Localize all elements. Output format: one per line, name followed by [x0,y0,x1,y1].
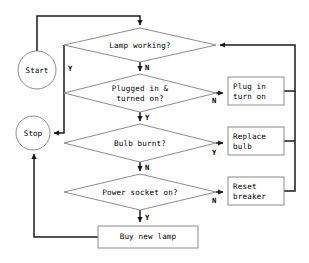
node-start-label: Start [7,66,67,75]
node-buy-new-lamp [98,226,198,248]
flowchart-canvas: Start Stop Lamp working? Plugged in & tu… [0,0,309,263]
branch-label-power-socket-no: N [212,196,216,205]
branch-label-power-socket-yes: Y [145,213,149,222]
node-plug-in-turn-on [228,77,284,105]
branch-label-lamp-working-yes: Y [68,64,72,73]
node-bulb-burnt [64,124,216,162]
branch-label-bulb-burnt-no: N [145,163,149,172]
node-power-socket [64,174,216,210]
node-lamp-working [64,28,216,62]
node-reset-breaker [228,177,284,205]
branch-label-bulb-burnt-yes: Y [212,148,216,157]
node-replace-bulb [228,127,284,155]
branch-label-plugged-in-yes: Y [145,113,149,122]
edge-lamp-working-yes-to-stop [54,45,64,133]
branch-label-plugged-in-no: N [212,96,216,105]
branch-label-lamp-working-no: N [145,63,149,72]
node-plugged-in [64,74,216,112]
node-stop-label: Stop [3,129,63,138]
